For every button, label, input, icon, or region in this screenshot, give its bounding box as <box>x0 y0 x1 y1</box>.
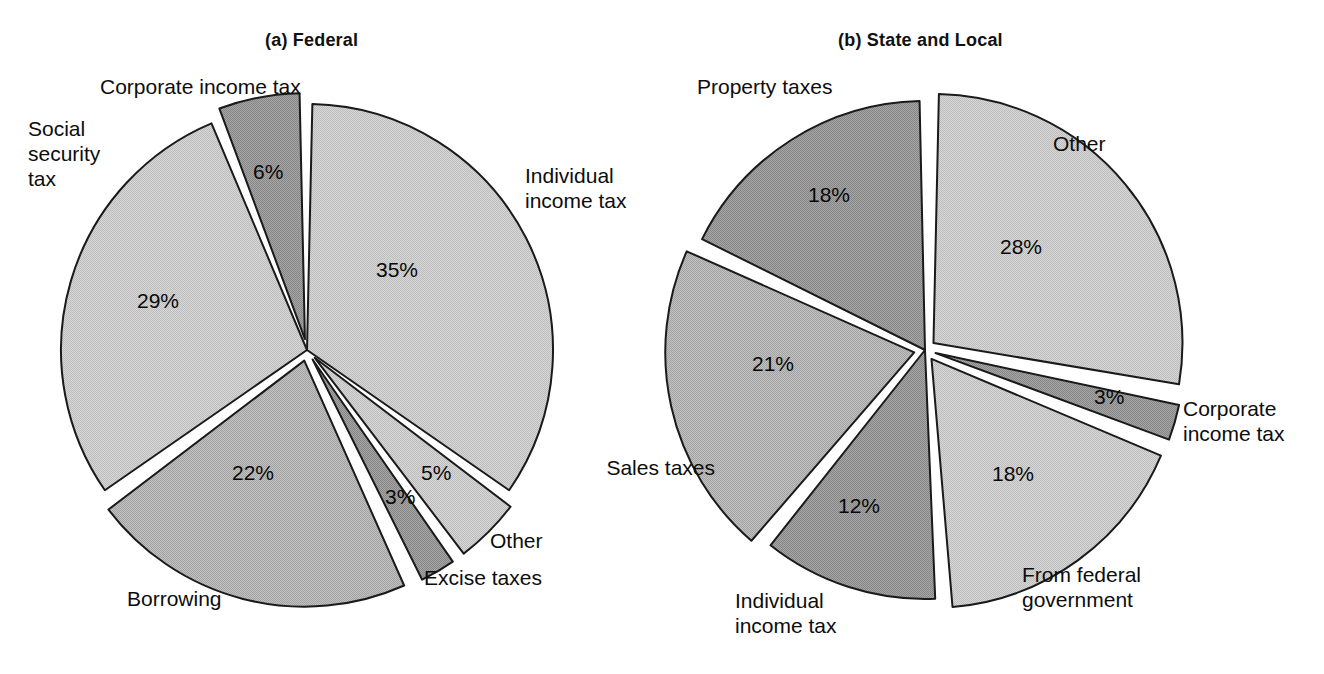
percent-state-local-sales-taxes: 21% <box>752 353 794 374</box>
pie-federal <box>61 93 553 606</box>
label-federal-individual-income-tax: Individual income tax <box>525 163 627 213</box>
label-federal-corporate-income-tax: Corporate income tax <box>100 74 301 99</box>
percent-state-local-property-taxes: 18% <box>808 184 850 205</box>
percent-state-local-individual-income-tax: 12% <box>838 495 880 516</box>
percent-federal-excise-taxes: 3% <box>385 486 415 507</box>
label-federal-excise-taxes: Excise taxes <box>424 565 542 590</box>
label-state-local-corporate-income-tax: Corporate income tax <box>1183 396 1285 446</box>
percent-federal-corporate-income-tax: 6% <box>253 161 283 182</box>
label-federal-social-security-tax: Social security tax <box>28 116 100 191</box>
chart-title-federal: (a) Federal <box>265 30 358 51</box>
chart-title-state-and-local: (b) State and Local <box>838 30 1003 51</box>
figure-canvas: (a) Federal (b) State and Local Corpor <box>0 0 1324 674</box>
label-state-local-other: Other <box>1053 131 1106 156</box>
percent-state-local-corporate-income-tax: 3% <box>1094 386 1124 407</box>
percent-federal-individual-income-tax: 35% <box>376 259 418 280</box>
percent-state-local-from-federal-government: 18% <box>992 463 1034 484</box>
percent-federal-social-security-tax: 29% <box>137 290 179 311</box>
percent-federal-other: 5% <box>421 462 451 483</box>
label-state-local-sales-taxes: Sales taxes <box>560 455 715 480</box>
label-state-local-individual-income-tax: Individual income tax <box>735 588 837 638</box>
label-federal-other: Other <box>490 528 543 553</box>
percent-state-local-other: 28% <box>1000 236 1042 257</box>
label-state-local-property-taxes: Property taxes <box>697 74 832 99</box>
percent-federal-borrowing: 22% <box>232 462 274 483</box>
pie-slice[interactable] <box>307 104 553 490</box>
label-federal-borrowing: Borrowing <box>127 586 222 611</box>
label-state-local-from-federal-government: From federal government <box>1022 562 1141 612</box>
pie-state-and-local <box>665 94 1182 607</box>
